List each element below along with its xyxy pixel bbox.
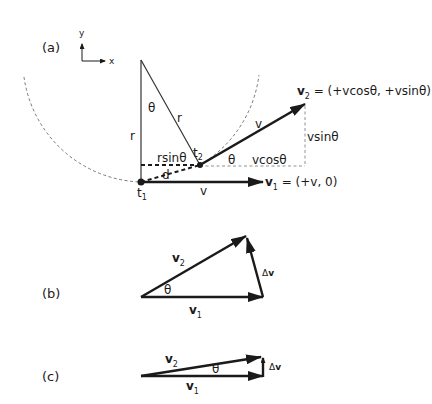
point-t1 bbox=[138, 179, 145, 186]
chord-d-dashed bbox=[141, 165, 200, 182]
rsin-label: rsinθ bbox=[157, 151, 186, 165]
v2-label-c: v2 bbox=[165, 352, 178, 369]
d-label: d bbox=[162, 168, 170, 182]
v-diagonal-label: v bbox=[255, 117, 262, 131]
theta-top-label: θ bbox=[148, 101, 155, 115]
circular-motion-diagram: (a) y x θ r r t2 rsinθ d bbox=[0, 0, 432, 404]
delta-v-label-b: Δv bbox=[262, 268, 274, 278]
t2-label: t2 bbox=[193, 146, 203, 162]
axis-indicator: y x bbox=[79, 28, 115, 66]
panel-a-label: (a) bbox=[42, 40, 60, 55]
vsin-label: vsinθ bbox=[307, 130, 339, 144]
t1-label: t1 bbox=[137, 186, 147, 202]
theta-label-b: θ bbox=[164, 283, 171, 297]
panel-c-label: (c) bbox=[42, 369, 59, 384]
panel-b: (b) v2 θ v1 Δv bbox=[42, 236, 274, 320]
vcos-label: vcosθ bbox=[252, 153, 287, 167]
point-t2 bbox=[197, 162, 203, 168]
v1-label-c: v1 bbox=[186, 379, 199, 396]
panel-a: (a) y x θ r r t2 rsinθ d bbox=[24, 28, 431, 202]
r-vertical-label: r bbox=[130, 129, 135, 143]
panel-c: (c) v2 θ v1 Δv bbox=[42, 352, 281, 396]
v2-label-b: v2 bbox=[172, 251, 185, 268]
r-diagonal-label: r bbox=[177, 111, 182, 125]
circular-path-right bbox=[200, 75, 259, 165]
y-axis-label: y bbox=[79, 28, 85, 38]
theta-t2-label: θ bbox=[228, 153, 235, 167]
v1-label-b: v1 bbox=[189, 303, 202, 320]
v2-equation: v2 = (+vcosθ, +vsinθ) bbox=[297, 84, 431, 101]
x-axis-label: x bbox=[109, 56, 115, 66]
circular-path-left bbox=[24, 77, 141, 182]
v-bottom-label: v bbox=[200, 184, 207, 198]
v2-vector-b bbox=[141, 236, 246, 297]
panel-b-label: (b) bbox=[42, 286, 60, 301]
v2-vector-c bbox=[141, 357, 261, 376]
delta-v-label-c: Δv bbox=[269, 362, 281, 372]
theta-label-c: θ bbox=[212, 362, 219, 376]
v1-equation: v1 = (+v, 0) bbox=[265, 175, 337, 192]
delta-v-vector-b bbox=[247, 238, 263, 297]
